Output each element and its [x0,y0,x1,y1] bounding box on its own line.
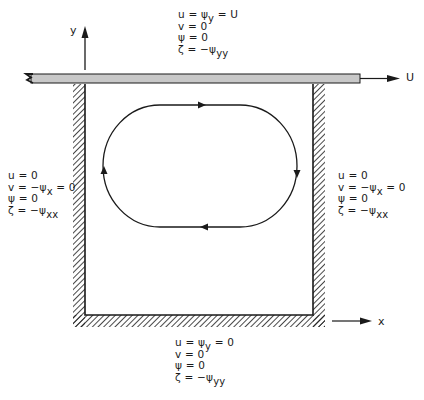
bc-line: ζ = −ψyy [178,44,238,56]
x-axis-label: x [378,315,385,328]
bc-line: ζ = −ψxx [8,205,76,217]
moving-lid [26,74,360,83]
left-boundary-conditions: u = 0 v = −ψx = 0 ψ = 0 ζ = −ψxx [8,170,76,216]
cavity-outline [85,84,313,315]
right-boundary-conditions: u = 0 v = −ψx = 0 ψ = 0 ζ = −ψxx [338,170,406,216]
bottom-wall [73,315,325,327]
lid-velocity-label: U [406,71,414,84]
bc-line: ζ = −ψyy [175,372,234,384]
bottom-boundary-conditions: u = ψy = 0 v = 0 ψ = 0 ζ = −ψyy [175,337,234,383]
top-boundary-conditions: u = ψy = U v = 0 ψ = 0 ζ = −ψyy [178,9,238,55]
right-wall [313,84,325,327]
bc-line: ζ = −ψxx [338,205,406,217]
x-axis-arrow [332,318,372,325]
y-axis-label: y [70,24,77,37]
lid-velocity-arrow [360,75,400,82]
y-axis-arrow [82,26,89,70]
cavity-diagram: y U x u = ψy = U v = 0 ψ = 0 ζ = −ψyy u … [0,0,424,400]
